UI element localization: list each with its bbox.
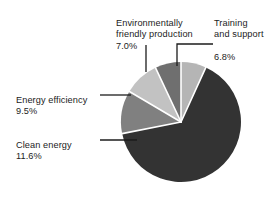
pie-label-percent: 9.5% <box>16 106 112 117</box>
pie-label-percent: 11.6% <box>16 151 112 162</box>
pie-label-environmentally-friendly-production: Environmentally friendly production 7.0% <box>116 7 216 63</box>
pie-label-line1: Training <box>214 18 248 28</box>
pie-label-training-and-support: Training and support 6.8% <box>214 7 276 74</box>
pie-label-energy-efficiency: Energy efficiency 9.5% <box>16 84 112 129</box>
pie-label-clean-energy: Clean energy 11.6% <box>16 129 112 174</box>
pie-label-line1: Clean energy <box>16 140 72 150</box>
pie-label-line2: friendly production <box>116 29 193 39</box>
pie-label-percent: 6.8% <box>214 52 276 63</box>
pie-label-line2: and support <box>214 29 276 40</box>
pie-label-line1: Energy efficiency <box>16 95 87 105</box>
chart-canvas: Environmentally friendly production 7.0%… <box>0 0 279 211</box>
pie-label-line1: Environmentally <box>116 18 183 28</box>
pie-label-percent: 7.0% <box>116 41 216 52</box>
